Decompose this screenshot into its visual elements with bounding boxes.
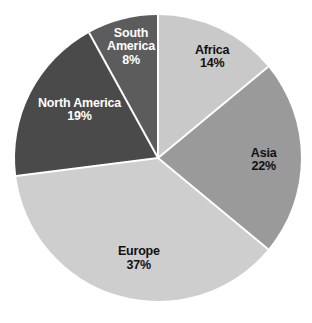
pie-chart-canvas — [0, 0, 312, 323]
pie-chart: Africa14%Asia22%Europe37%North America19… — [0, 0, 312, 323]
